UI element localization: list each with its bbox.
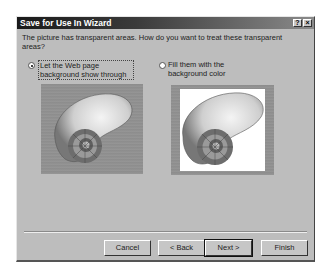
cancel-button[interactable]: Cancel [104,240,151,256]
radio-background-show-through[interactable] [28,62,35,69]
close-icon: × [305,19,309,26]
finish-button[interactable]: Finish [261,240,308,256]
title-bar[interactable]: Save for Use In Wizard ? × [17,17,314,29]
nautilus-shell-icon [41,84,143,174]
next-button[interactable]: Next > [205,240,252,256]
prompt-text: The picture has transparent areas. How d… [22,33,287,51]
help-button[interactable]: ? [293,19,302,27]
window-title: Save for Use In Wizard [20,18,112,28]
help-icon: ? [295,19,299,26]
option-label-show-through[interactable]: Let the Web page background show through [38,60,134,80]
radio-fill-background-color[interactable] [159,62,166,69]
save-for-use-in-wizard-dialog: Save for Use In Wizard ? × The picture h… [16,16,315,262]
back-button[interactable]: < Back [158,240,205,256]
preview-image-show-through [41,84,143,174]
separator [24,231,307,233]
option-label-fill-color[interactable]: Fill them with the background color [168,60,264,78]
close-button[interactable]: × [303,19,312,27]
nautilus-shell-icon [171,85,274,175]
preview-image-fill-color [171,85,274,175]
